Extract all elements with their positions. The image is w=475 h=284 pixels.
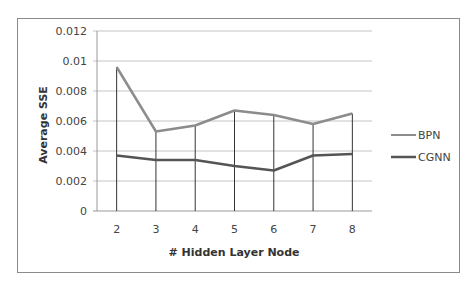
y-axis-title: Average SSE (37, 86, 50, 164)
y-tick-label: 0.002 (56, 175, 88, 188)
legend-label-cgnn: CGNN (418, 151, 451, 164)
line-chart: 00.0020.0040.0060.0080.010.012 2345678 A… (0, 0, 475, 284)
y-tick-label: 0.004 (56, 145, 88, 158)
x-tick-label: 8 (349, 223, 356, 236)
x-tick-label: 7 (310, 223, 317, 236)
x-tick-label: 4 (192, 223, 199, 236)
x-tick-label: 2 (113, 223, 120, 236)
y-tick-label: 0.012 (56, 25, 88, 38)
x-axis-title: # Hidden Layer Node (169, 246, 300, 259)
y-tick-label: 0.01 (63, 55, 88, 68)
drop-lines (117, 67, 353, 211)
gridlines (93, 31, 372, 211)
x-tick-label: 5 (231, 223, 238, 236)
x-tick-label: 6 (270, 223, 277, 236)
y-axis-ticks: 00.0020.0040.0060.0080.010.012 (56, 25, 88, 218)
y-tick-label: 0 (80, 205, 87, 218)
x-axis-ticks: 2345678 (113, 223, 356, 236)
y-tick-label: 0.006 (56, 115, 88, 128)
legend-label-bpn: BPN (418, 129, 440, 142)
y-tick-label: 0.008 (56, 85, 88, 98)
legend: BPNCGNN (391, 129, 451, 164)
x-tick-label: 3 (152, 223, 159, 236)
